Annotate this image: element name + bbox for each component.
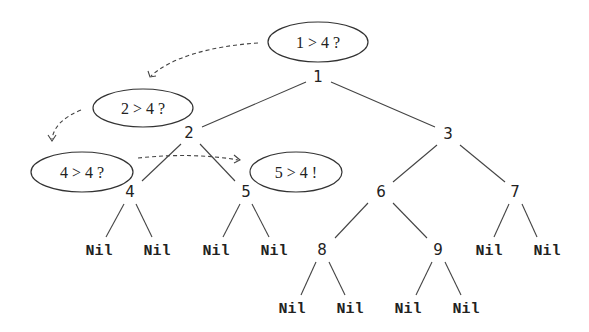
nil-leaf: Nil	[278, 301, 305, 318]
edge-7-nil-left	[494, 204, 509, 237]
edge-4-nil-right	[136, 204, 152, 237]
comparison-bubble-1: 1 > 4 ?	[268, 22, 368, 62]
comparison-label: 4 > 4 ?	[60, 164, 104, 181]
nil-leaf: Nil	[394, 301, 421, 318]
comparison-label: 2 > 4 ?	[121, 100, 165, 117]
tree-node-9: 9	[433, 241, 443, 259]
tree-node-8: 8	[317, 241, 327, 259]
comparison-bubbles: 1 > 4 ? 2 > 4 ? 4 > 4 ? 5 > 4 !	[31, 22, 368, 192]
nil-leaf: Nil	[143, 243, 170, 260]
tree-node-5: 5	[241, 183, 251, 201]
edge-6-8	[335, 203, 368, 238]
tree-node-6: 6	[376, 183, 386, 201]
trace-arrow-2-to-4	[52, 110, 81, 139]
edge-5-nil-right	[252, 204, 269, 237]
edge-9-nil-left	[416, 262, 432, 295]
tree-node-3: 3	[443, 125, 453, 143]
trace-arrow-1-to-2	[151, 43, 258, 76]
nil-leaf: Nil	[336, 301, 363, 318]
tree-node-2: 2	[184, 124, 194, 142]
edge-3-7	[460, 145, 505, 182]
comparison-bubble-4: 4 > 4 ?	[31, 152, 133, 192]
edge-1-2	[202, 82, 306, 127]
tree-node-4: 4	[125, 183, 135, 201]
tree-node-7: 7	[510, 183, 520, 201]
arrowhead-icon	[234, 155, 240, 163]
edge-2-4	[142, 144, 181, 181]
edge-7-nil-right	[522, 204, 537, 237]
nil-leaf: Nil	[533, 243, 560, 260]
edge-3-6	[393, 145, 437, 182]
edge-5-nil-left	[223, 204, 240, 237]
nil-leaf: Nil	[452, 301, 479, 318]
comparison-label: 5 > 4 !	[275, 164, 317, 181]
edge-6-9	[393, 203, 427, 238]
nil-leaf: Nil	[260, 243, 287, 260]
tree-diagram: 1 > 4 ? 2 > 4 ? 4 > 4 ? 5 > 4 ! 1 2 3 4 …	[0, 0, 589, 332]
nil-leaf: Nil	[475, 243, 502, 260]
edge-2-5	[200, 144, 235, 181]
edge-4-nil-left	[106, 204, 124, 237]
edge-8-nil-left	[301, 262, 316, 295]
arrowhead-icon	[48, 135, 56, 141]
nil-leaf: Nil	[85, 243, 112, 260]
nil-leaf: Nil	[202, 243, 229, 260]
edge-1-3	[331, 82, 435, 127]
trace-arrow-4-to-5	[138, 156, 238, 160]
edge-9-nil-right	[445, 262, 461, 295]
comparison-bubble-5: 5 > 4 !	[250, 152, 342, 192]
edge-8-nil-right	[329, 262, 345, 295]
tree-node-1: 1	[313, 68, 323, 86]
comparison-bubble-2: 2 > 4 ?	[93, 89, 193, 127]
arrowhead-icon	[148, 71, 156, 77]
comparison-label: 1 > 4 ?	[296, 34, 340, 51]
